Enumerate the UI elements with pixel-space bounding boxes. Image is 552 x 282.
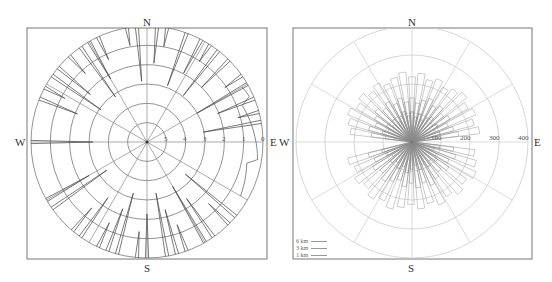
legend-swatch [311,248,327,249]
radial-tick-2: 2 [222,136,226,143]
radial-tick-4: 4 [183,136,187,143]
radial-tick-100: 100 [431,135,442,142]
east-label: E [534,137,541,148]
radial-tick-5: 5 [164,136,168,143]
legend-item-3km: 3 km [296,245,327,252]
north-label: N [408,17,416,28]
west-label: W [15,137,25,148]
north-label: N [143,17,151,28]
south-label: S [144,263,150,274]
radial-tick-0: 0 [261,136,265,143]
legend-swatch [311,241,327,242]
radial-tick-200: 200 [460,135,471,142]
west-label: W [279,137,289,148]
radial-tick-3: 3 [203,136,207,143]
legend-swatch [311,255,327,256]
legend-item-6km: 6 km [296,238,327,245]
right-polar-chart: N S W E 100 200 300 400 6 km 3 km 1 km [276,0,552,282]
radial-tick-1: 1 [242,136,246,143]
legend-item-1km: 1 km [296,252,327,259]
south-label: S [408,263,414,274]
radial-tick-400: 400 [518,135,529,142]
radial-tick-300: 300 [489,135,500,142]
legend: 6 km 3 km 1 km [296,238,327,259]
left-polar-plot [0,0,276,282]
left-polar-chart: N S W E 5 4 3 2 1 0 [0,0,276,282]
